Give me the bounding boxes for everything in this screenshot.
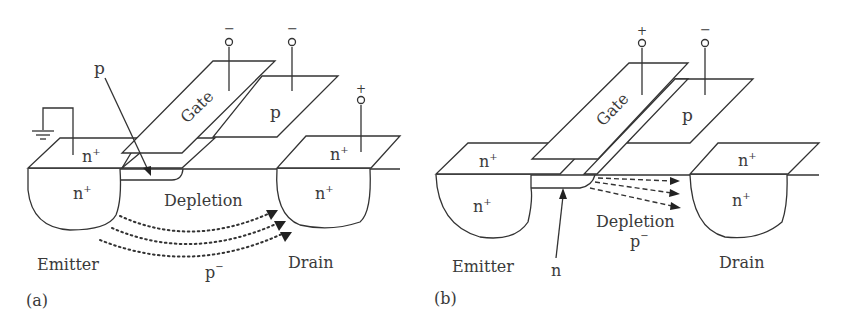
depletion-label: Depletion xyxy=(596,212,675,231)
p-body-label: p xyxy=(682,105,693,125)
emitter-label: Emitter xyxy=(37,255,99,274)
svg-text:−: − xyxy=(287,21,298,36)
panel-b: + − Gate p n+ n+ n+ n+ n Depletion p− xyxy=(434,22,819,308)
channel-region xyxy=(121,169,183,180)
arrowhead-icon xyxy=(559,188,567,199)
panel-a: − − + p Gate p n+ n+ n+ n+ Depletion xyxy=(26,21,400,310)
svg-text:−: − xyxy=(700,22,711,37)
emitter-label: Emitter xyxy=(452,257,514,276)
n-channel-region xyxy=(531,175,595,188)
drain-label: Drain xyxy=(719,253,764,272)
electron-flow-arrows xyxy=(590,177,681,210)
p-channel-label: p xyxy=(94,58,105,78)
electron-flow-arrows xyxy=(100,210,292,257)
svg-text:+: + xyxy=(356,82,366,96)
substrate-label: p− xyxy=(630,230,649,251)
n-channel-label: n xyxy=(551,261,561,280)
n-pointer-arrow xyxy=(556,196,563,258)
panel-a-caption: (a) xyxy=(26,291,48,310)
depletion-label: Depletion xyxy=(164,191,243,210)
substrate-label: p− xyxy=(205,261,224,282)
mosfet-diagram: − − + p Gate p n+ n+ n+ n+ Depletion xyxy=(0,0,841,326)
svg-text:+: + xyxy=(637,24,647,38)
svg-text:−: − xyxy=(224,21,235,36)
drain-label: Drain xyxy=(288,253,333,272)
panel-b-caption: (b) xyxy=(434,289,457,308)
p-body-label: p xyxy=(270,102,281,122)
